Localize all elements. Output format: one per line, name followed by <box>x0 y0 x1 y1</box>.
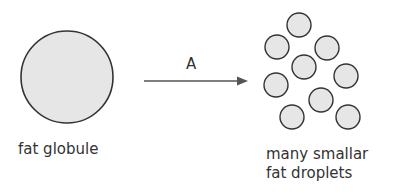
droplets-label-line1: many smallar <box>266 145 368 164</box>
droplet <box>287 13 311 37</box>
droplets-label-line2: fat droplets <box>266 164 352 183</box>
droplet <box>334 64 358 88</box>
arrow-head-icon <box>237 77 248 86</box>
droplet <box>309 88 333 112</box>
fat-droplets-group <box>264 13 360 129</box>
droplet <box>265 35 289 59</box>
droplet <box>292 55 316 79</box>
fat-globule-circle <box>21 31 113 123</box>
fat-globule-label: fat globule <box>18 140 98 159</box>
droplet <box>315 36 339 60</box>
droplet <box>264 73 288 97</box>
arrow-label: A <box>186 55 196 74</box>
droplet <box>336 105 360 129</box>
droplet <box>280 105 304 129</box>
